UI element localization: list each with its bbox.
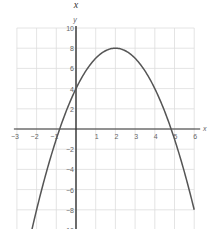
y-tick-label: 6 xyxy=(70,65,74,72)
chart-title: x xyxy=(73,0,79,10)
y-tick-label: 2 xyxy=(70,106,74,113)
x-tick-label: −2 xyxy=(31,133,39,140)
x-axis-label: x xyxy=(202,125,207,132)
y-tick-label: 10 xyxy=(66,25,74,32)
x-tick-label: 2 xyxy=(114,133,118,140)
y-tick-label: −10 xyxy=(62,227,74,229)
x-tick-label: 4 xyxy=(154,133,158,140)
parabola-chart: x −3−2−1123456108642−2−4−6−8−10 y x xyxy=(0,0,209,229)
y-tick-label: −6 xyxy=(66,187,74,194)
y-tick-label: 4 xyxy=(70,86,74,93)
x-tick-label: −3 xyxy=(11,133,19,140)
axes xyxy=(14,26,200,229)
y-tick-label: −8 xyxy=(66,207,74,214)
y-tick-label: −4 xyxy=(66,166,74,173)
x-tick-label: 6 xyxy=(193,133,197,140)
y-tick-label: 8 xyxy=(70,45,74,52)
y-tick-label: −2 xyxy=(66,146,74,153)
x-tick-label: 3 xyxy=(134,133,138,140)
x-tick-label: 1 xyxy=(95,133,99,140)
y-axis-label: y xyxy=(72,16,77,24)
